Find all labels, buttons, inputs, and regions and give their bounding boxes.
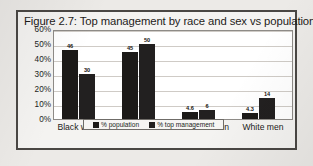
bar-group: 4550	[114, 31, 174, 119]
legend-label: % top management	[157, 121, 214, 128]
chart-title: Figure 2.7: Top management by race and s…	[24, 15, 294, 28]
bar[interactable]: 6	[199, 110, 215, 119]
legend-swatch-icon	[149, 122, 155, 128]
y-axis-tick: 50%	[23, 41, 51, 49]
legend-item[interactable]: % population	[93, 121, 139, 128]
y-axis-tick: 0%	[23, 116, 51, 124]
bar-value-label: 4.6	[186, 105, 194, 111]
y-axis-tick: 30%	[23, 71, 51, 79]
y-axis-tick: 10%	[23, 101, 51, 109]
bar-group: 4.314	[234, 31, 294, 119]
bar-value-label: 46	[67, 43, 73, 49]
y-axis: 60%50%40%30%20%10%0%	[23, 30, 51, 120]
bar[interactable]: 46	[62, 50, 78, 119]
legend-label: % population	[101, 121, 139, 128]
bar-value-label: 4.3	[246, 106, 254, 112]
bar[interactable]: 4.3	[242, 113, 258, 119]
scanned-page: Figure 2.7: Top management by race and s…	[0, 0, 313, 166]
bar-value-label: 14	[264, 91, 270, 97]
bars-layer: 463045504.664.314	[54, 31, 292, 119]
plot-area: 463045504.664.314	[53, 30, 293, 120]
bar[interactable]: 30	[79, 74, 95, 119]
bar-value-label: 30	[84, 67, 90, 73]
chart-legend: % population% top management	[83, 119, 224, 130]
legend-item[interactable]: % top management	[149, 121, 214, 128]
figure-frame: Figure 2.7: Top management by race and s…	[16, 10, 297, 150]
y-axis-tick: 60%	[23, 26, 51, 34]
x-axis-category-label: White men	[233, 122, 293, 132]
bar-value-label: 6	[205, 103, 208, 109]
bar[interactable]: 50	[139, 44, 155, 119]
bar-group: 4630	[54, 31, 114, 119]
bar[interactable]: 45	[122, 52, 138, 120]
bar-group: 4.66	[174, 31, 234, 119]
y-axis-tick: 40%	[23, 56, 51, 64]
bar[interactable]: 4.6	[182, 112, 198, 119]
bar-value-label: 45	[127, 45, 133, 51]
plot-region: 60%50%40%30%20%10%0% 463045504.664.314 B…	[23, 30, 295, 148]
legend-swatch-icon	[93, 122, 99, 128]
bar[interactable]: 14	[259, 98, 275, 119]
y-axis-tick: 20%	[23, 86, 51, 94]
bar-value-label: 50	[144, 37, 150, 43]
